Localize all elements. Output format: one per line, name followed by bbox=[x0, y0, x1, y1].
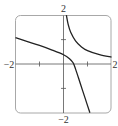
x-max-label: 2 bbox=[113, 59, 118, 70]
y-max-label: 2 bbox=[61, 3, 66, 14]
graph: 2 −2 −2 2 bbox=[0, 0, 118, 126]
x-min-label: −2 bbox=[4, 59, 15, 70]
right-branch-curve bbox=[66, 15, 111, 57]
left-branch-curve bbox=[16, 38, 90, 113]
y-min-label: −2 bbox=[58, 114, 69, 125]
